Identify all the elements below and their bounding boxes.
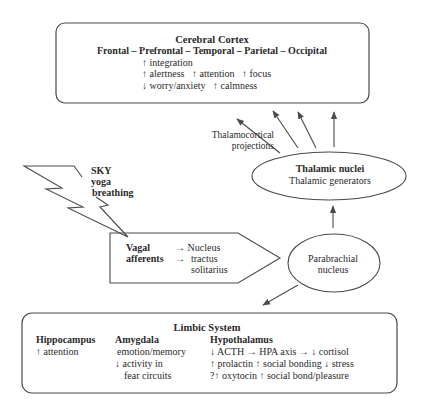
amygdala-heading: Amygdala (115, 335, 159, 345)
projection-arrow-3 (298, 112, 316, 148)
vagal-label-line2: afferents (126, 254, 164, 264)
hypothalamus-line2: ↑ prolactin ↑ social bonding ↓ stress (210, 359, 354, 369)
sky-label-line3: breathing (92, 188, 134, 198)
amygdala-line1: emotion/memory (117, 347, 186, 357)
vagal-arrow-2: → (175, 254, 185, 264)
cortex-effect-calmness: ↓ worry/anxiety ↑ calmness (142, 81, 257, 91)
cortex-effect-alertness: ↑ alertness ↑ attention ↑ focus (142, 69, 271, 79)
cortex-title: Cerebral Cortex (175, 35, 249, 46)
diagram-canvas: Cerebral Cortex Frontal – Prefrontal – T… (0, 0, 428, 417)
projections-label-line1: Thalamocortical (190, 131, 274, 141)
amygdala-line3: fear circuits (124, 371, 171, 381)
thalamic-title: Thalamic nuclei (296, 164, 365, 174)
cortex-regions: Frontal – Prefrontal – Temporal – Pariet… (97, 46, 327, 56)
sky-label-line2: yoga (91, 177, 111, 187)
hypothalamus-heading: Hypothalamus (210, 335, 273, 345)
vagal-target-solitarius: solitarius (191, 265, 228, 275)
hippocampus-effect: ↑ attention (36, 347, 79, 357)
hypothalamus-line3: ?↑ oxytocin ↑ social bond/pleasure (210, 371, 349, 381)
hypothalamus-line1: ↓ ACTH → HPA axis → ↓ cortisol (210, 347, 349, 357)
parabrachial-to-limbic-arrow (263, 285, 298, 305)
lightning-bolt-icon (24, 166, 128, 237)
cortex-effect-integration: ↑ integration (142, 58, 193, 68)
vagal-target-nucleus: → Nucleus (175, 243, 220, 253)
limbic-title: Limbic System (174, 323, 241, 334)
parabrachial-line1: Parabrachial (308, 254, 358, 264)
projection-arrow-2 (273, 111, 298, 148)
vagal-label-line1: Vagal (126, 243, 150, 253)
thalamic-subtitle: Thalamic generators (289, 176, 371, 186)
sky-label-line1: SKY (91, 166, 112, 176)
vagal-target-tractus: tractus (191, 254, 218, 264)
parabrachial-line2: nucleus (318, 265, 349, 275)
hippocampus-heading: Hippocampus (36, 335, 95, 345)
projections-label-line2: projections (190, 142, 274, 152)
amygdala-line2: ↓ activity in (115, 359, 163, 369)
